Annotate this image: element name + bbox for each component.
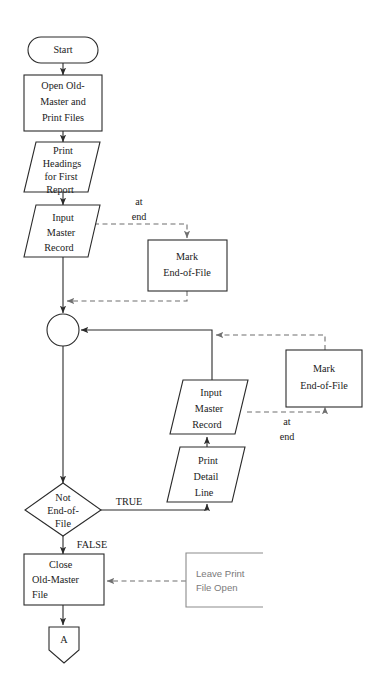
mark-eof-2-label-line-1: Mark <box>313 363 336 374</box>
edge-label-decision-false: FALSE <box>77 539 107 550</box>
connector-a-label: A <box>60 634 68 645</box>
node-input-master-record-2[interactable]: Input Master Record <box>170 380 248 434</box>
mark-eof-2-label-line-2: End-of-File <box>300 380 348 391</box>
edge-input-2-at-end-to-mark-eof-2 <box>247 407 325 412</box>
node-print-detail-line[interactable]: Print Detail Line <box>167 447 245 502</box>
node-merge-connector[interactable] <box>47 314 79 346</box>
input-master-record-2-label-line-2: Master <box>195 403 224 414</box>
print-detail-line-label-line-2: Detail <box>194 471 219 482</box>
close-old-master-label-line-1: Close <box>49 559 73 570</box>
edge-label-at-end-1-line-1: at <box>135 196 143 207</box>
mark-eof-1-label-line-1: Mark <box>176 251 199 262</box>
print-headings-label-line-4: Report <box>46 184 74 195</box>
print-detail-line-label-line-3: Line <box>195 487 214 498</box>
not-end-of-file-label-line-1: Not <box>55 492 70 503</box>
flowchart-svg: Start Open Old- Master and Print Files P… <box>0 0 383 689</box>
mark-eof-1-label-line-2: End-of-File <box>163 267 211 278</box>
close-old-master-label-line-2: Old-Master <box>32 574 80 585</box>
edge-label-at-end-1-line-2: end <box>132 211 147 222</box>
node-mark-eof-1[interactable]: Mark End-of-File <box>148 240 227 291</box>
edge-label-at-end-2-line-2: end <box>280 431 295 442</box>
mark-eof-1-process-shape <box>148 240 227 291</box>
flowchart-canvas: Start Open Old- Master and Print Files P… <box>0 0 383 689</box>
not-end-of-file-label-line-2: End-of- <box>47 505 79 516</box>
node-open-files[interactable]: Open Old- Master and Print Files <box>24 75 102 131</box>
start-label: Start <box>53 44 72 55</box>
input-master-record-1-label-line-1: Input <box>52 212 74 223</box>
open-files-label-line-2: Master and <box>40 96 86 107</box>
leave-print-file-open-label-line-2: File Open <box>196 582 238 593</box>
print-detail-line-label-line-1: Print <box>198 455 218 466</box>
print-headings-label-line-3: for First <box>44 171 77 182</box>
input-master-record-1-label-line-3: Record <box>44 242 73 253</box>
node-start[interactable]: Start <box>28 37 98 63</box>
node-not-end-of-file-decision[interactable]: Not End-of- File <box>25 483 101 536</box>
edge-label-decision-true: TRUE <box>116 496 143 507</box>
merge-connector-circle-shape <box>47 314 79 346</box>
close-old-master-label-line-3: File <box>32 589 48 600</box>
node-connector-a[interactable]: A <box>49 627 79 663</box>
node-print-headings[interactable]: Print Headings for First Report <box>24 142 100 195</box>
edge-loop-back-to-merge-connector <box>81 330 212 380</box>
input-master-record-2-label-line-1: Input <box>200 387 222 398</box>
leave-print-file-open-label-line-1: Leave Print <box>196 568 245 579</box>
node-input-master-record-1[interactable]: Input Master Record <box>24 205 100 257</box>
edge-label-at-end-2-line-1: at <box>283 416 291 427</box>
node-close-old-master[interactable]: Close Old-Master File <box>24 554 104 605</box>
input-master-record-2-label-line-3: Record <box>192 419 221 430</box>
node-mark-eof-2[interactable]: Mark End-of-File <box>286 350 362 407</box>
edge-input-1-at-end-to-mark-eof-1 <box>94 224 187 238</box>
input-master-record-1-label-line-2: Master <box>47 227 76 238</box>
edge-mark-eof-1-return <box>67 291 187 301</box>
open-files-label-line-3: Print Files <box>42 112 84 123</box>
print-headings-label-line-1: Print <box>53 145 73 156</box>
not-end-of-file-label-line-3: File <box>55 518 71 529</box>
print-headings-label-line-2: Headings <box>43 158 82 169</box>
mark-eof-2-process-shape <box>286 350 362 407</box>
leave-print-file-open-bracket-shape <box>186 553 263 607</box>
node-leave-print-file-open-note: Leave Print File Open <box>186 553 263 607</box>
edge-mark-eof-2-return <box>216 335 325 350</box>
open-files-label-line-1: Open Old- <box>41 80 85 91</box>
